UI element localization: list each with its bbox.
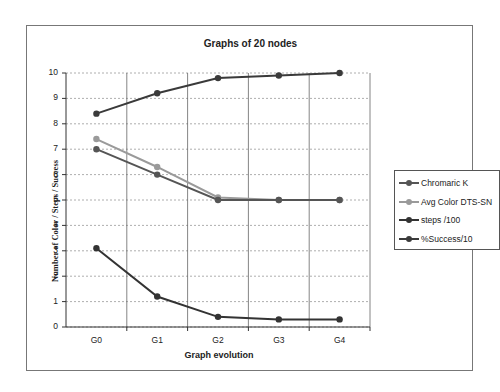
- y-tick-label: 3: [44, 245, 58, 255]
- y-tick-label: 10: [44, 67, 58, 77]
- y-tick-label: 9: [44, 92, 58, 102]
- x-tick-label: G0: [81, 335, 111, 345]
- y-tick-label: 0: [44, 321, 58, 331]
- x-tick-label: G4: [325, 335, 355, 345]
- y-tick-label: 4: [44, 219, 58, 229]
- y-tick-label: 2: [44, 270, 58, 280]
- y-tick-label: 8: [44, 118, 58, 128]
- x-axis-label: Graph evolution: [66, 350, 372, 360]
- y-tick-label: 7: [44, 143, 58, 153]
- y-tick-label: 5: [44, 194, 58, 204]
- y-tick-label: 6: [44, 169, 58, 179]
- x-tick-label: G3: [264, 335, 294, 345]
- x-tick-label: G1: [142, 335, 172, 345]
- y-tick-label: 1: [44, 296, 58, 306]
- x-tick-label: G2: [203, 335, 233, 345]
